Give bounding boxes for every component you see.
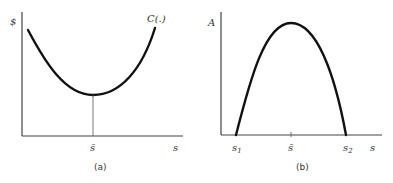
caption-b: (b) <box>296 162 309 172</box>
area-curve <box>236 23 346 135</box>
x-tick-s2: s2 <box>343 142 353 155</box>
panel-a: $ C(.) s̄ s (a) <box>10 12 183 172</box>
panel-b: A s1 s̄ s2 s (b) <box>207 12 382 172</box>
x-label-a: s <box>173 142 178 153</box>
y-label-a: $ <box>10 16 16 27</box>
figure: $ C(.) s̄ s (a) A s1 s̄ s2 s (b) <box>0 0 393 183</box>
caption-a: (a) <box>94 162 107 172</box>
x-tick-sbar-a: s̄ <box>90 142 96 153</box>
cost-curve <box>28 28 155 95</box>
x-tick-s1: s1 <box>232 142 242 155</box>
curve-label: C(.) <box>147 13 166 24</box>
x-tick-sbar-b: s̄ <box>288 142 294 153</box>
x-label-b: s <box>370 142 375 153</box>
y-label-b: A <box>207 17 215 28</box>
